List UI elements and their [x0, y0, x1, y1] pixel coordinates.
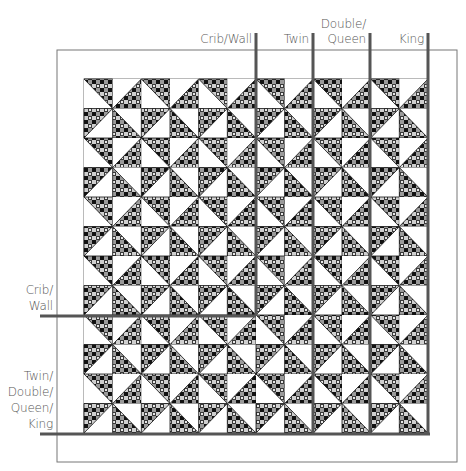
size-label-top: Double/Queen — [321, 17, 366, 47]
size-label-top: Twin — [284, 32, 309, 47]
label-line: Crib/Wall — [200, 32, 252, 47]
label-line: Crib/ — [26, 282, 53, 298]
size-label-top: Crib/Wall — [200, 32, 252, 47]
label-line: Queen/ — [8, 400, 53, 416]
label-line: Double/ — [321, 17, 366, 32]
label-line: Queen — [321, 32, 366, 47]
size-label-top: King — [399, 32, 424, 47]
label-line: King — [399, 32, 424, 47]
label-line: Wall — [26, 298, 53, 314]
label-line: King — [8, 416, 53, 432]
label-line: Twin — [284, 32, 309, 47]
quilt-diagram — [0, 0, 466, 471]
label-line: Double/ — [8, 384, 53, 400]
label-line: Twin/ — [8, 368, 53, 384]
size-label-left: Twin/Double/Queen/King — [8, 368, 53, 432]
size-label-left: Crib/Wall — [26, 282, 53, 314]
